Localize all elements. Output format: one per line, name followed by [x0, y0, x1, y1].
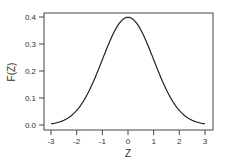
y-tick-label: 0.1: [25, 94, 37, 103]
y-axis: 0.00.10.20.30.4: [25, 13, 44, 130]
y-tick-label: 0.2: [25, 67, 37, 76]
x-tick-label: -3: [47, 137, 55, 146]
plot-frame: [44, 13, 213, 130]
x-tick-label: 3: [203, 137, 208, 146]
x-tick-label: 0: [126, 137, 131, 146]
density-curve: [51, 17, 205, 124]
x-axis: -3-2-10123: [47, 130, 207, 146]
x-tick-label: 1: [151, 137, 156, 146]
y-tick-label: 0.0: [25, 121, 37, 130]
x-tick-label: 2: [177, 137, 182, 146]
x-axis-label: Z: [125, 148, 131, 159]
y-tick-label: 0.4: [25, 13, 37, 22]
y-axis-label: F(Z): [6, 63, 17, 82]
chart: 0.00.10.20.30.4 -3-2-10123 Z F(Z): [0, 0, 231, 167]
y-tick-label: 0.3: [25, 40, 37, 49]
x-tick-label: -1: [99, 137, 107, 146]
x-tick-label: -2: [73, 137, 81, 146]
